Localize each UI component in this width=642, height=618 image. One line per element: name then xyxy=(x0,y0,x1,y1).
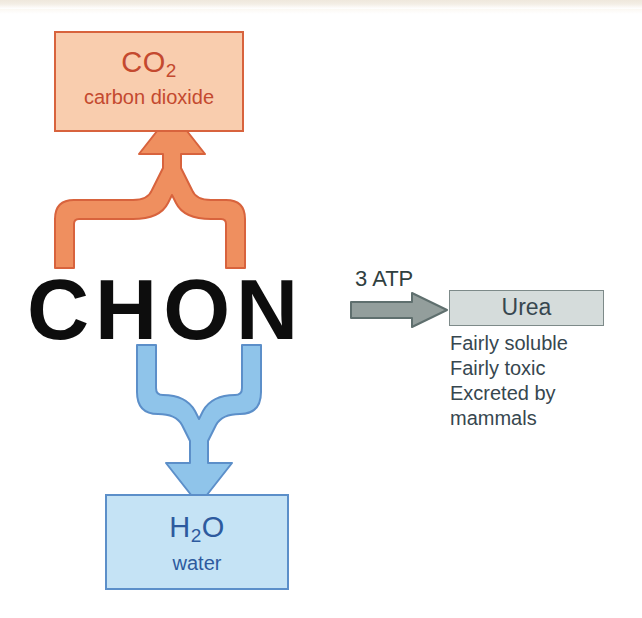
urea-note-item: Fairly toxic xyxy=(450,356,568,381)
urea-note-item: Excreted by xyxy=(450,381,568,406)
co2-formula-subscript: 2 xyxy=(166,60,177,81)
atp-cost-label: 3 ATP xyxy=(355,268,413,290)
urea-notes-list: Fairly soluble Fairly toxic Excreted by … xyxy=(450,331,568,431)
co2-formula: CO2 xyxy=(56,48,242,77)
urea-note-item: Fairly soluble xyxy=(450,331,568,356)
h2o-formula: H2O xyxy=(107,513,287,542)
co2-name-label: carbon dioxide xyxy=(56,87,242,107)
h2o-box: H2O water xyxy=(105,494,289,590)
h2o-name-label: water xyxy=(107,553,287,573)
urea-box: Urea xyxy=(449,290,604,326)
co2-box: CO2 carbon dioxide xyxy=(54,31,244,132)
h2o-formula-subscript: 2 xyxy=(191,525,202,546)
co2-arrow-icon xyxy=(55,112,245,268)
diagram-canvas: CO2 carbon dioxide H2O water Urea CHON 3… xyxy=(0,0,642,618)
h2o-formula-main-2: O xyxy=(202,511,225,543)
co2-formula-main: CO xyxy=(121,46,166,78)
h2o-arrow-icon xyxy=(137,345,261,505)
urea-arrow-icon xyxy=(351,293,447,327)
chon-label: CHON xyxy=(27,266,304,352)
h2o-formula-main-1: H xyxy=(169,511,190,543)
urea-note-item: mammals xyxy=(450,406,568,431)
urea-label: Urea xyxy=(450,296,603,319)
